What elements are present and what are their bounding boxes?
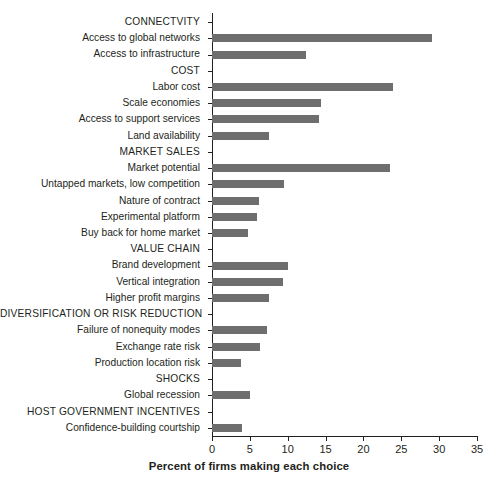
bar-label: Untapped markets, low competition: [0, 176, 206, 192]
y-axis-tick: [208, 412, 212, 413]
bar-chart: CONNECTVITYAccess to global networksAcce…: [0, 0, 498, 484]
y-axis-tick: [208, 249, 212, 250]
bar-label: Vertical integration: [0, 274, 206, 290]
y-axis-tick: [208, 314, 212, 315]
y-axis-tick: [208, 152, 212, 153]
bar: [212, 115, 319, 123]
x-axis-tick-label: 30: [419, 443, 459, 455]
category-header-label: VALUE CHAIN: [0, 241, 206, 257]
bar-label: Exchange rate risk: [0, 339, 206, 355]
category-header-label: CONNECTVITY: [0, 14, 206, 30]
bar-label: Land availability: [0, 128, 206, 144]
x-axis-tick: [212, 436, 213, 441]
bar: [212, 180, 284, 188]
bar-label: Labor cost: [0, 79, 206, 95]
x-axis-tick: [250, 436, 251, 441]
bar: [212, 213, 257, 221]
x-axis-tick-label: 10: [268, 443, 308, 455]
x-axis-tick: [439, 436, 440, 441]
bar: [212, 83, 393, 91]
category-header-label: MARKET SALES: [0, 144, 206, 160]
bar-label: Scale economies: [0, 95, 206, 111]
bar: [212, 391, 250, 399]
bar: [212, 197, 259, 205]
x-axis-tick-label: 5: [230, 443, 270, 455]
bar-label: Nature of contract: [0, 193, 206, 209]
bar: [212, 99, 321, 107]
bar-label: Global recession: [0, 387, 206, 403]
x-axis-tick: [288, 436, 289, 441]
bar: [212, 229, 248, 237]
x-axis-tick-label: 0: [192, 443, 232, 455]
bar: [212, 424, 242, 432]
x-axis-title: Percent of firms making each choice: [0, 460, 498, 472]
bar: [212, 326, 267, 334]
bar: [212, 359, 241, 367]
x-axis-tick: [401, 436, 402, 441]
bar: [212, 132, 269, 140]
category-header-label: DIVERSIFICATION OR RISK REDUCTION: [0, 306, 206, 322]
x-axis-tick-label: 35: [457, 443, 497, 455]
y-axis-tick: [208, 379, 212, 380]
x-axis-tick-label: 20: [343, 443, 383, 455]
bar-label: Access to infrastructure: [0, 46, 206, 62]
bar: [212, 164, 390, 172]
bar-label: Access to support services: [0, 111, 206, 127]
bar-label: Failure of nonequity modes: [0, 322, 206, 338]
category-header-label: HOST GOVERNMENT INCENTIVES: [0, 404, 206, 420]
bar-label: Experimental platform: [0, 209, 206, 225]
bar: [212, 343, 260, 351]
bar: [212, 278, 283, 286]
x-axis-tick: [326, 436, 327, 441]
category-header-label: SHOCKS: [0, 371, 206, 387]
bar-label: Buy back for home market: [0, 225, 206, 241]
x-axis-tick: [477, 436, 478, 441]
bar-label: Production location risk: [0, 355, 206, 371]
y-axis-tick: [208, 71, 212, 72]
x-axis-tick-label: 15: [306, 443, 346, 455]
x-axis-tick: [363, 436, 364, 441]
bar-label: Access to global networks: [0, 30, 206, 46]
bar: [212, 294, 269, 302]
bar-label: Brand development: [0, 257, 206, 273]
x-axis-tick-label: 25: [381, 443, 421, 455]
bar-label: Confidence-building courtship: [0, 420, 206, 436]
bar: [212, 51, 306, 59]
bar: [212, 262, 288, 270]
bar-label: Higher profit margins: [0, 290, 206, 306]
category-header-label: COST: [0, 63, 206, 79]
bar: [212, 34, 432, 42]
bar-label: Market potential: [0, 160, 206, 176]
y-axis-tick: [208, 22, 212, 23]
